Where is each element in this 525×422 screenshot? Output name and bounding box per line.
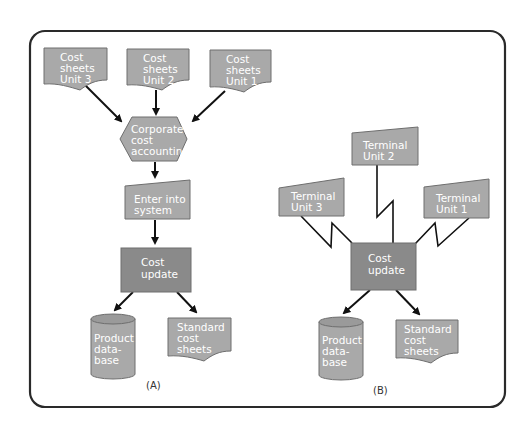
caption-b: (B) <box>373 385 388 396</box>
doc-label-line3: sheets <box>177 343 212 355</box>
terminal-unit-3: Terminal Unit 3 <box>279 178 344 216</box>
doc-label-line3: Unit 1 <box>226 75 257 87</box>
panel-b: Terminal Unit 2 Terminal Unit 3 Terminal… <box>279 127 489 396</box>
document-standard-cost-sheets-b: Standard cost sheets <box>396 320 458 363</box>
comm-link-unit3 <box>301 216 352 247</box>
document-standard-cost-sheets-a: Standard cost sheets <box>168 318 231 361</box>
process-cost-update-a: Cost update <box>121 248 191 292</box>
database-label-line3: base <box>322 356 347 368</box>
panel-a: Cost sheets Unit 3 Cost sheets Unit 2 Co… <box>44 48 271 391</box>
database-product-b: Product data- base <box>319 317 363 380</box>
database-product-a: Product data- base <box>91 314 135 379</box>
arrow-update-to-database <box>115 292 133 310</box>
doc-label-line3: Unit 3 <box>60 73 91 85</box>
flowchart-diagram: Cost sheets Unit 3 Cost sheets Unit 2 Co… <box>0 0 525 422</box>
comm-link-unit2 <box>377 165 393 244</box>
input-label-line2: system <box>134 204 172 216</box>
doc-label-line3: Unit 2 <box>143 74 174 86</box>
document-cost-sheets-unit-2: Cost sheets Unit 2 <box>127 49 189 90</box>
arrow-unit3-to-accounting <box>84 84 121 121</box>
arrow-update-to-database-b <box>344 290 370 313</box>
terminal-unit-2: Terminal Unit 2 <box>352 127 418 165</box>
process-corporate-cost-accounting: Corporate cost accounting <box>120 117 189 161</box>
caption-a: (A) <box>146 380 161 391</box>
comm-link-unit1 <box>415 218 469 246</box>
update-label-line1: Cost <box>368 252 391 264</box>
doc-label-line3: sheets <box>404 345 439 357</box>
terminal-label-line2: Unit 3 <box>291 201 322 213</box>
document-cost-sheets-unit-3: Cost sheets Unit 3 <box>44 48 107 90</box>
process-cost-update-b: Cost update <box>351 243 416 290</box>
terminal-label-line2: Unit 1 <box>436 203 467 215</box>
update-label-line2: update <box>141 268 178 280</box>
update-label-line1: Cost <box>141 256 164 268</box>
arrow-unit1-to-accounting <box>193 91 225 121</box>
process-label-line3: accounting <box>131 145 189 157</box>
update-label-line2: update <box>368 264 405 276</box>
database-label-line3: base <box>94 354 119 366</box>
terminal-unit-1: Terminal Unit 1 <box>424 179 489 218</box>
terminal-label-line2: Unit 2 <box>363 150 394 162</box>
arrow-update-to-standard-sheets-b <box>396 290 419 314</box>
document-cost-sheets-unit-1: Cost sheets Unit 1 <box>210 50 271 92</box>
arrow-update-to-standard-sheets <box>177 292 196 312</box>
manual-input-enter-into-system: Enter into system <box>125 180 190 219</box>
